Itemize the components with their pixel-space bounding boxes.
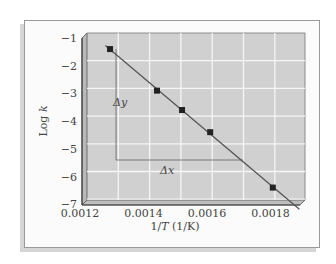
chart-svg: −1−2−3−4−5−6−7 0.00120.00140.00160.0018 … bbox=[0, 0, 336, 264]
y-axis-title: Log k bbox=[37, 105, 50, 136]
plot-bottom-face bbox=[82, 200, 305, 205]
x-tick-label: 0.0018 bbox=[251, 207, 290, 220]
y-tick-label: −2 bbox=[61, 60, 77, 73]
delta-y-label: Δy bbox=[112, 96, 128, 109]
data-point bbox=[107, 46, 113, 52]
y-tick-label: −1 bbox=[61, 32, 77, 45]
x-tick-label: 0.0014 bbox=[124, 207, 163, 220]
y-tick-label: −5 bbox=[61, 143, 77, 156]
x-axis-title: 1/T (1/K) bbox=[150, 220, 199, 233]
x-tick-label: 0.0012 bbox=[61, 207, 100, 220]
y-tick-label: −6 bbox=[61, 171, 77, 184]
data-point bbox=[270, 185, 276, 191]
plot-left-face bbox=[82, 33, 87, 205]
x-tick-label: 0.0016 bbox=[188, 207, 227, 220]
y-tick-labels: −1−2−3−4−5−6−7 bbox=[61, 32, 77, 211]
data-point bbox=[179, 107, 185, 113]
y-tick-label: −3 bbox=[61, 87, 77, 100]
data-point bbox=[154, 88, 160, 94]
data-point bbox=[207, 129, 213, 135]
y-tick-label: −4 bbox=[61, 115, 77, 128]
x-tick-labels: 0.00120.00140.00160.0018 bbox=[61, 207, 290, 220]
delta-x-label: Δx bbox=[159, 164, 175, 177]
